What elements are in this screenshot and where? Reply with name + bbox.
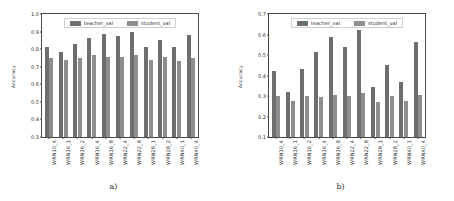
y-tick-mark	[267, 55, 269, 56]
figure: Accuracy teacher_valstudent_val 0.30.40.…	[0, 0, 454, 201]
bar-student_val-WRN28_1	[149, 60, 153, 137]
legend-label-student_val: student_val	[368, 20, 397, 26]
x-tick-label-WRN22_4: WRN22_4	[122, 140, 128, 165]
bar-student_val-WRN22_4	[120, 57, 124, 137]
x-tick-label-WRN28_1: WRN28_1	[377, 140, 383, 165]
bar-student_val-WRN16_1	[291, 101, 295, 137]
bar-student_val-WRN16_4	[92, 55, 96, 137]
x-tick-label-WRN16_2: WRN16_2	[79, 140, 85, 165]
legend-entry-teacher_val: teacher_val	[297, 20, 340, 26]
x-tick-label-WRN28_2: WRN28_2	[165, 140, 171, 165]
bar-student_val-WRN16_4	[319, 97, 323, 137]
bar-teacher_val-WRN16_2	[300, 69, 304, 137]
legend-swatch-student_val	[354, 21, 365, 26]
x-tick-mark	[148, 137, 149, 139]
legend-swatch-teacher_val	[70, 21, 81, 26]
legend-a: teacher_valstudent_val	[64, 18, 176, 28]
subplot-caption-a: a)	[0, 182, 227, 191]
bar-teacher_val-WRN16_8	[102, 34, 106, 137]
bar-student_val-WRN22_8	[134, 55, 138, 137]
x-tick-mark	[318, 137, 319, 139]
legend-label-student_val: student_val	[141, 20, 170, 26]
bar-teacher_val-WRN22_4	[116, 36, 120, 137]
subplot-a: Accuracy teacher_valstudent_val 0.30.40.…	[0, 0, 227, 201]
bar-student_val-WRN22_8	[361, 93, 365, 137]
x-tick-label-WRN16_4: WRN16_4	[321, 140, 327, 165]
plot-area-b: teacher_valstudent_val 0.10.20.30.40.50.…	[268, 13, 426, 138]
legend-swatch-student_val	[127, 21, 138, 26]
bar-teacher_val-WRN40_1	[399, 82, 403, 137]
x-tick-label-WRN40_4: WRN40_4	[420, 140, 426, 165]
x-tick-label-WRN16_1: WRN16_1	[65, 140, 71, 165]
x-tick-label-WRN22_8: WRN22_8	[363, 140, 369, 165]
x-tick-mark	[77, 137, 78, 139]
y-tick-mark	[40, 31, 42, 32]
x-tick-mark	[290, 137, 291, 139]
x-tick-label-WRN40_1: WRN40_1	[179, 140, 185, 165]
x-tick-mark	[91, 137, 92, 139]
bar-teacher_val-WRN16_2	[73, 44, 77, 137]
bar-teacher_val-WRN10_4	[45, 47, 49, 137]
y-axis-label-a: Accuracy	[11, 28, 16, 88]
bar-teacher_val-WRN22_8	[130, 32, 134, 137]
y-tick-mark	[40, 14, 42, 15]
x-tick-mark	[417, 137, 418, 139]
x-tick-mark	[276, 137, 277, 139]
bar-teacher_val-WRN10_4	[272, 71, 276, 137]
x-tick-mark	[120, 137, 121, 139]
bar-student_val-WRN28_2	[163, 57, 167, 137]
bar-student_val-WRN16_8	[106, 57, 110, 137]
legend-entry-teacher_val: teacher_val	[70, 20, 113, 26]
y-tick-mark	[40, 84, 42, 85]
x-tick-mark	[403, 137, 404, 139]
bar-student_val-WRN40_1	[404, 101, 408, 137]
bar-teacher_val-WRN16_1	[59, 52, 63, 137]
bar-student_val-WRN10_4	[49, 58, 53, 137]
y-tick-mark	[40, 101, 42, 102]
bar-teacher_val-WRN40_4	[187, 35, 191, 137]
bar-teacher_val-WRN16_4	[314, 52, 318, 137]
x-tick-mark	[176, 137, 177, 139]
x-tick-label-WRN10_4: WRN10_4	[278, 140, 284, 165]
x-tick-mark	[190, 137, 191, 139]
bar-student_val-WRN16_2	[305, 96, 309, 137]
x-tick-mark	[347, 137, 348, 139]
x-tick-mark	[63, 137, 64, 139]
y-tick-mark	[267, 96, 269, 97]
x-tick-mark	[361, 137, 362, 139]
bar-teacher_val-WRN16_4	[87, 38, 91, 137]
x-tick-mark	[162, 137, 163, 139]
subplot-caption-b: b)	[227, 182, 454, 191]
legend-entry-student_val: student_val	[127, 20, 170, 26]
bar-student_val-WRN16_2	[78, 58, 82, 137]
legend-swatch-teacher_val	[297, 21, 308, 26]
subplot-b: Accuracy teacher_valstudent_val 0.10.20.…	[227, 0, 454, 201]
x-tick-mark	[332, 137, 333, 139]
bar-teacher_val-WRN22_8	[357, 30, 361, 137]
x-tick-label-WRN28_1: WRN28_1	[150, 140, 156, 165]
x-tick-label-WRN22_8: WRN22_8	[136, 140, 142, 165]
bar-teacher_val-WRN22_4	[343, 47, 347, 137]
x-tick-label-WRN16_8: WRN16_8	[108, 140, 114, 165]
bar-teacher_val-WRN40_4	[414, 42, 418, 137]
x-tick-label-WRN10_4: WRN10_4	[51, 140, 57, 165]
x-tick-mark	[49, 137, 50, 139]
x-tick-label-WRN16_8: WRN16_8	[335, 140, 341, 165]
x-tick-mark	[134, 137, 135, 139]
bar-student_val-WRN28_1	[376, 102, 380, 137]
bar-teacher_val-WRN16_8	[329, 37, 333, 137]
y-tick-mark	[267, 75, 269, 76]
y-tick-mark	[267, 34, 269, 35]
bar-teacher_val-WRN28_2	[158, 40, 162, 137]
x-tick-label-WRN28_2: WRN28_2	[392, 140, 398, 165]
y-tick-mark	[267, 137, 269, 138]
bar-student_val-WRN40_1	[177, 61, 181, 137]
y-tick-mark	[40, 137, 42, 138]
plot-area-a: teacher_valstudent_val 0.30.40.50.60.70.…	[41, 13, 199, 138]
bar-student_val-WRN40_4	[418, 95, 422, 137]
bar-teacher_val-WRN16_1	[286, 92, 290, 137]
x-tick-mark	[105, 137, 106, 139]
bar-student_val-WRN40_4	[191, 58, 195, 137]
x-tick-label-WRN16_1: WRN16_1	[292, 140, 298, 165]
legend-label-teacher_val: teacher_val	[311, 20, 340, 26]
